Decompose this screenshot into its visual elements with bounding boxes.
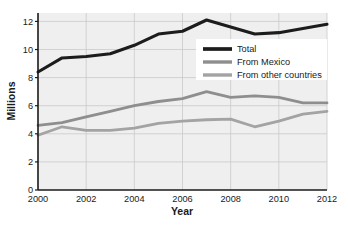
y-tick-label: 12: [23, 17, 33, 27]
y-tick-label: 4: [28, 129, 33, 139]
y-tick-label: 10: [23, 45, 33, 55]
x-tick-label: 2006: [172, 194, 192, 204]
y-tick-labels: 024681012: [23, 17, 38, 196]
x-tick-label: 2008: [220, 194, 240, 204]
y-tick-label: 2: [28, 157, 33, 167]
x-tick-label: 2010: [269, 194, 289, 204]
x-tick-label: 2000: [28, 194, 48, 204]
y-tick-label: 8: [28, 73, 33, 83]
x-tick-labels: 2000200220042006200820102012: [28, 194, 337, 204]
y-axis-title: Millions: [5, 81, 17, 120]
chart-legend[interactable]: TotalFrom MexicoFrom other countries: [196, 39, 327, 80]
legend-label: From Mexico: [237, 57, 290, 67]
x-axis-title: Year: [171, 205, 193, 217]
x-tick-label: 2004: [124, 194, 144, 204]
chart-figure: 024681012 2000200220042006200820102012 Y…: [0, 0, 348, 235]
x-tick-label: 2002: [76, 194, 96, 204]
legend-label: From other countries: [237, 70, 322, 80]
line-chart: 024681012 2000200220042006200820102012 Y…: [0, 0, 348, 235]
y-tick-label: 6: [28, 101, 33, 111]
x-tick-label: 2012: [317, 194, 337, 204]
legend-label: Total: [237, 44, 256, 54]
